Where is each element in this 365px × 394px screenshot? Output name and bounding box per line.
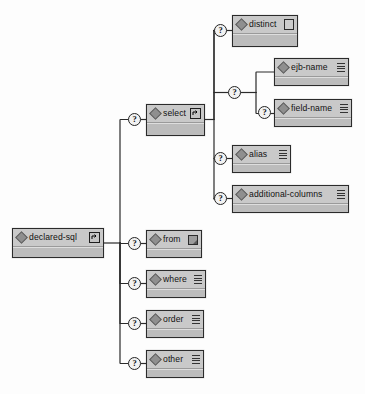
folded-square-icon[interactable] [188,235,198,245]
node-select[interactable]: select [146,104,205,136]
node-label: order [163,315,189,324]
wire-trunk-to-select [120,120,128,244]
node-label: ejb-name [291,63,334,72]
text-lines-icon [192,355,200,364]
node-body [233,164,290,172]
optional-marker-order[interactable]: ? [128,317,141,330]
node-header-row: ejb-name [275,59,348,77]
diamond-element-icon [149,107,162,120]
node-additional-columns[interactable]: additional-columns [232,185,349,213]
optional-marker-additional-columns[interactable]: ? [214,192,227,205]
text-lines-icon [340,104,348,113]
diamond-element-icon [149,313,162,326]
node-label: other [163,355,189,364]
diamond-element-icon [277,61,290,74]
schema-diagram-canvas: declared-sql select distinct ejb-name [0,0,365,394]
node-header-row: additional-columns [233,186,348,204]
optional-marker-from[interactable]: ? [128,237,141,250]
optional-marker-select[interactable]: ? [128,113,141,126]
expand-collapse-icon[interactable] [89,232,100,243]
node-body [233,204,348,212]
node-label: where [163,275,191,284]
wire-trunk-to-from [120,243,128,244]
empty-rect-icon[interactable] [284,19,294,30]
node-other[interactable]: other [146,350,204,378]
diamond-element-icon [149,273,162,286]
node-order[interactable]: order [146,310,204,338]
node-header-row: order [147,311,203,329]
optional-marker-other[interactable]: ? [128,357,141,370]
wire-trunk-to-order [120,243,128,324]
diamond-element-icon [149,233,162,246]
node-distinct[interactable]: distinct [232,15,298,47]
wire-trunk-to-where [120,243,128,284]
node-body [275,77,348,85]
diamond-element-icon [235,188,248,201]
optional-marker-where[interactable]: ? [128,277,141,290]
node-body [147,329,203,337]
optional-marker-name-choice[interactable]: ? [228,86,241,99]
node-declared-sql[interactable]: declared-sql [12,228,104,258]
diamond-element-icon [277,102,290,115]
node-body [147,369,203,377]
node-where[interactable]: where [146,270,206,298]
node-body [147,249,201,257]
node-header-row: distinct [233,16,297,34]
optional-marker-distinct[interactable]: ? [214,24,227,37]
node-ejb-name[interactable]: ejb-name [274,58,349,86]
node-label: from [163,235,185,244]
node-header-row: declared-sql [13,229,103,247]
diamond-element-icon [15,231,28,244]
wire-subtrunk-up [214,31,215,120]
node-header-row: where [147,271,205,289]
node-header-row: alias [233,146,290,164]
optional-marker-alias[interactable]: ? [214,152,227,165]
wire-trunk-to-other [120,243,128,364]
node-field-name[interactable]: field-name [274,99,352,127]
node-body [147,289,205,297]
text-lines-icon [279,150,287,159]
text-lines-icon [194,275,202,284]
diamond-element-icon [235,18,248,31]
node-body [275,118,351,126]
node-label: additional-columns [249,190,334,199]
node-label: alias [249,150,276,159]
diamond-element-icon [235,148,248,161]
node-body [13,247,103,257]
node-header-row: from [147,231,201,249]
node-body [147,123,204,135]
text-lines-icon [337,63,345,72]
optional-marker-field-name[interactable]: ? [258,106,271,119]
text-lines-icon [337,190,345,199]
node-label: distinct [249,20,281,29]
expand-collapse-icon[interactable] [190,108,201,119]
node-body [233,34,297,46]
node-from[interactable]: from [146,230,202,258]
text-lines-icon [192,315,200,324]
diamond-element-icon [149,353,162,366]
wire-choice-to-ejbname [256,72,274,93]
node-label: select [163,109,187,118]
node-alias[interactable]: alias [232,145,291,173]
node-header-row: field-name [275,100,351,118]
node-label: field-name [291,104,337,113]
node-header-row: other [147,351,203,369]
node-label: declared-sql [29,233,86,242]
node-header-row: select [147,105,204,123]
